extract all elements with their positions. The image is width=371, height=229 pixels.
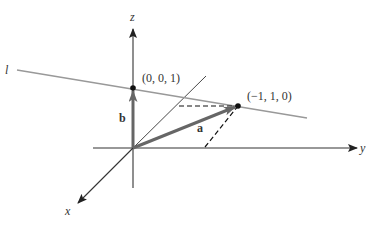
point-0-0-1-label: (0, 0, 1) [142, 71, 180, 85]
vector-b-label: b [119, 111, 126, 125]
vector-a [133, 107, 235, 148]
line-l-label: l [5, 63, 9, 77]
point-neg1-1-0 [235, 103, 241, 109]
y-axis-label: y [359, 141, 366, 155]
x-axis-label: x [64, 204, 71, 218]
vector-diagram: z y x l b a (0, 0, 1) (−1, 1, 0) [0, 0, 371, 229]
point-neg1-1-0-label: (−1, 1, 0) [247, 89, 292, 103]
vector-a-label: a [197, 121, 203, 135]
z-axis-label: z [129, 10, 135, 24]
point-0-0-1 [130, 85, 136, 91]
x-axis [78, 76, 206, 203]
